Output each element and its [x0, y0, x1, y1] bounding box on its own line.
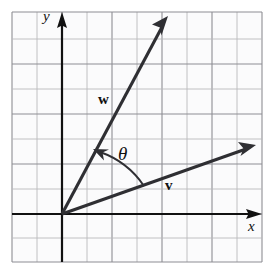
figure-canvas: y x w v θ	[0, 0, 270, 269]
vector-v-label: v	[165, 177, 173, 193]
angle-theta-label: θ	[118, 143, 127, 164]
x-axis-label: x	[247, 218, 255, 234]
y-axis-label: y	[41, 8, 50, 24]
vector-angle-figure: y x w v θ	[0, 0, 270, 269]
vector-w-label: w	[98, 91, 109, 107]
